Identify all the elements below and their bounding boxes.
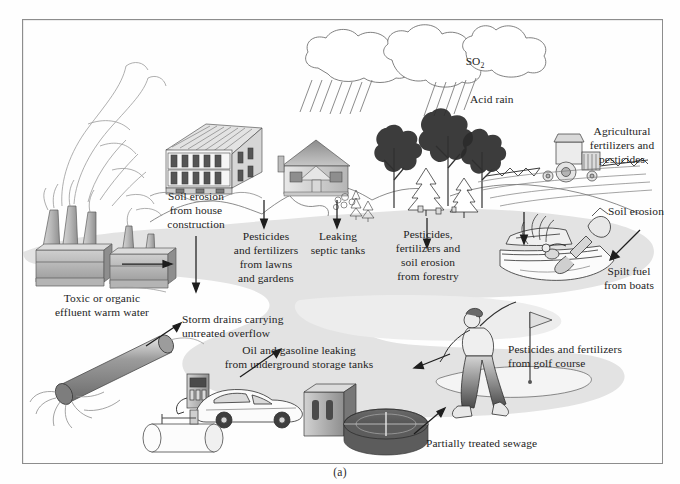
label-agricultural-fertilizers: Agricultural fertilizers and pesticides [570,125,674,167]
label-spilt-fuel: Spilt fuel from boats [588,265,670,293]
label-oil-gasoline: Oil and gasoline leaking from undergroun… [196,344,402,372]
label-so2: SO2 [452,55,498,71]
label-leaking-septic-tanks: Leaking septic tanks [303,230,373,258]
label-partially-treated-sewage: Partially treated sewage [426,437,586,451]
label-soil-erosion: Soil erosion [596,205,676,219]
figure-page: SO2 Acid rain Agricultural fertilizers a… [0,0,680,484]
label-lawns-gardens: Pesticides and fertilizers from lawns an… [219,230,313,286]
figure-caption: (a) [0,466,680,478]
label-toxic-effluent: Toxic or organic effluent warm water [34,292,170,320]
label-storm-drains: Storm drains carrying untreated overflow [182,313,332,341]
label-forestry: Pesticides, fertilizers and soil erosion… [383,228,473,284]
label-acid-rain: Acid rain [470,93,560,107]
label-golf-course: Pesticides and fertilizers from golf cou… [508,343,666,371]
label-house-construction: Soil erosion from house construction [148,190,244,232]
